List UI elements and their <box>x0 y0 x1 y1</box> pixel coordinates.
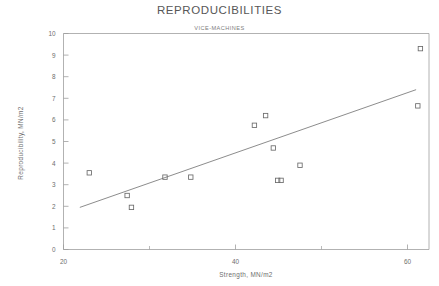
y-tick-label: 6 <box>52 116 56 123</box>
y-tick-label: 8 <box>52 73 56 80</box>
data-point-marker <box>416 104 420 108</box>
x-tick-label: 60 <box>404 258 412 265</box>
data-point-marker <box>87 171 91 175</box>
y-tick-label: 9 <box>52 52 56 59</box>
data-point-marker <box>418 46 422 50</box>
data-point-group <box>87 46 423 209</box>
y-tick-label: 7 <box>52 95 56 102</box>
x-axis-title: Strength, MN/m2 <box>219 271 273 279</box>
data-point-marker <box>129 205 133 209</box>
x-tick-label: 40 <box>232 258 240 265</box>
chart-subtitle: VICE-MACHINES <box>194 25 244 31</box>
reproducibilities-scatter-plot: REPRODUCIBILITIES VICE-MACHINES Reproduc… <box>0 0 439 286</box>
chart-figure: REPRODUCIBILITIES VICE-MACHINES Reproduc… <box>0 0 439 286</box>
y-axis-ticks: 012345678910 <box>48 30 68 253</box>
y-tick-label: 4 <box>52 160 56 167</box>
y-tick-label: 5 <box>52 138 56 145</box>
plot-frame <box>64 34 430 250</box>
y-tick-label: 2 <box>52 203 56 210</box>
y-tick-label: 0 <box>52 246 56 253</box>
y-axis-title: Reproducibility, MN/m2 <box>17 106 25 179</box>
y-tick-label: 3 <box>52 181 56 188</box>
data-point-marker <box>263 113 267 117</box>
y-tick-label: 10 <box>48 30 56 37</box>
x-axis-ticks: 204060 <box>60 245 412 265</box>
x-tick-label: 20 <box>60 258 68 265</box>
data-point-marker <box>298 163 302 167</box>
data-point-marker <box>252 123 256 127</box>
data-point-marker <box>189 175 193 179</box>
y-tick-label: 1 <box>52 224 56 231</box>
data-point-marker <box>125 193 129 197</box>
regression-line <box>80 90 416 208</box>
chart-title: REPRODUCIBILITIES <box>157 4 282 16</box>
data-point-marker <box>271 146 275 150</box>
